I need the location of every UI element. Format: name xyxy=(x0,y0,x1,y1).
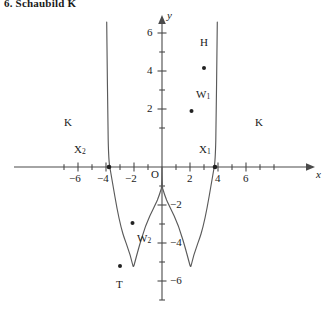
origin-label: O xyxy=(151,168,159,180)
y-tick-label--6: −6 xyxy=(170,274,182,286)
x-tick-label-2: 2 xyxy=(187,172,193,184)
x-axis-label: x xyxy=(316,168,321,180)
point-X2 xyxy=(107,165,112,170)
label-point-X1-sub: 1 xyxy=(207,147,211,156)
y-tick-label--4: −4 xyxy=(170,236,182,248)
y-axis xyxy=(158,15,167,300)
y-tick-label-2: 2 xyxy=(147,102,153,114)
point-H xyxy=(202,66,206,70)
x-tick-label--6: −6 xyxy=(69,172,81,184)
y-tick-label--2: −2 xyxy=(170,198,182,210)
label-point-H: H xyxy=(200,36,208,48)
x-tick-label-6: 6 xyxy=(243,172,249,184)
label-point-W2: W2 xyxy=(137,232,151,245)
label-point-X2-text: X xyxy=(74,143,82,155)
point-W1 xyxy=(190,109,194,113)
label-point-W1-text: W xyxy=(196,88,206,100)
label-point-W1-sub: 1 xyxy=(206,92,210,101)
label-curve-K-left: K xyxy=(64,116,72,128)
point-X1 xyxy=(213,165,218,170)
x-tick-label--4: −4 xyxy=(97,172,109,184)
point-T xyxy=(118,264,122,268)
point-W2 xyxy=(131,221,135,225)
label-point-X1: X1 xyxy=(199,143,211,156)
figure-container: 6. Schaubild K xyxy=(0,0,329,316)
x-tick-label-4: 4 xyxy=(215,172,221,184)
label-point-X2: X2 xyxy=(74,143,86,156)
x-tick-label--2: −2 xyxy=(125,172,137,184)
label-point-W2-text: W xyxy=(137,232,147,244)
label-point-W2-sub: 2 xyxy=(147,236,151,245)
label-point-W1: W1 xyxy=(196,88,210,101)
y-tick-label-6: 6 xyxy=(147,26,153,38)
label-point-T: T xyxy=(116,278,123,290)
x-axis xyxy=(14,163,315,172)
coordinate-plot xyxy=(0,0,329,316)
y-axis-label: y xyxy=(167,9,172,21)
y-tick-label-4: 4 xyxy=(147,64,153,76)
label-curve-K-right: K xyxy=(255,116,263,128)
label-point-X1-text: X xyxy=(199,143,207,155)
label-point-X2-sub: 2 xyxy=(82,147,86,156)
